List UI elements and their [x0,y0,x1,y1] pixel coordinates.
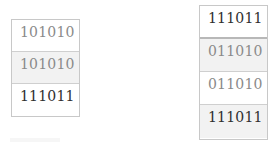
left-cell-1: 101010 [12,20,79,52]
right-cell-4: 111011 [200,105,267,138]
left-cell-3: 111011 [12,84,79,116]
faint-artifact [10,138,60,142]
right-cell-3: 011010 [200,72,267,105]
left-bit-stack: 101010 101010 111011 [11,19,80,117]
right-bit-stack: 111011 011010 011010 111011 [199,5,268,140]
left-cell-2: 101010 [12,52,79,84]
right-cell-2: 011010 [200,39,267,72]
right-cell-1: 111011 [200,6,267,39]
